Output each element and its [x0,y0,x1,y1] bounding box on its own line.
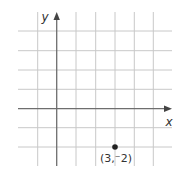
grid-lines [18,12,172,166]
plotted-point [112,144,118,150]
coordinate-plane: y x (3,⁻2) [0,0,183,178]
y-axis-label: y [40,10,49,24]
x-axis-arrow-icon [164,106,172,112]
point-label: (3,⁻2) [100,152,132,165]
y-axis-arrow-icon [54,12,60,20]
x-axis-label: x [164,115,173,129]
